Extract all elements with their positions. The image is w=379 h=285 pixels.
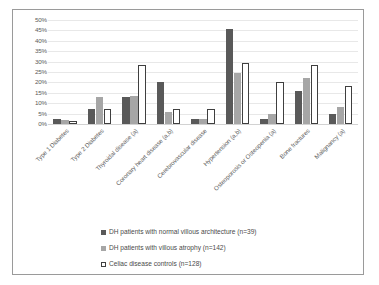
y-axis-tick-label: 10% [22,100,47,106]
bar[interactable] [199,119,207,124]
y-axis-tick-label: 45% [22,27,47,33]
bar-group [82,20,116,124]
bar[interactable] [104,109,112,124]
y-axis-tick-label: 50% [22,17,47,23]
bar[interactable] [311,65,319,124]
bar-group [324,20,358,124]
bar[interactable] [276,82,284,124]
bar[interactable] [88,109,96,124]
gridline [48,124,358,125]
bar-group [289,20,323,124]
y-axis-tick-label: 40% [22,38,47,44]
x-axis-tick-label: Osteoporosis or Osteopenia (a) [212,127,277,192]
x-axis-tick-label: Coronary heart disease (a,b) [114,127,174,187]
legend-swatch-icon [101,246,106,251]
x-axis-tick-label: Malignancy (a) [313,127,346,160]
y-axis-tick-label: 25% [22,69,47,75]
bar[interactable] [122,97,130,124]
bar[interactable] [260,119,268,124]
legend-item[interactable]: DH patients with villous atrophy (n=142) [101,240,341,256]
x-axis: Type 1 DiabetesType 2 DiabetesThyroidal … [48,127,358,207]
y-axis-tick-label: 30% [22,59,47,65]
bar[interactable] [53,119,61,124]
legend-swatch-icon [101,262,106,267]
bar-group [255,20,289,124]
bar-series-container [48,20,358,124]
y-axis-tick-label: 35% [22,48,47,54]
y-axis: 50%45%40%35%30%25%20%15%10%5%0% [22,20,47,124]
bar[interactable] [96,97,104,124]
bar-group [186,20,220,124]
y-axis-tick-label: 20% [22,79,47,85]
bar[interactable] [303,78,311,124]
legend-item-label: DH patients with villous atrophy (n=142) [109,244,226,252]
bar[interactable] [242,63,250,124]
y-axis-tick-label: 15% [22,90,47,96]
bar[interactable] [157,82,165,124]
y-axis-tick-label: 0% [22,121,47,127]
legend-item-label: Celiac disease controls (n=128) [109,260,202,268]
bar[interactable] [173,109,181,124]
plot-area: 50%45%40%35%30%25%20%15%10%5%0% [22,20,358,132]
bar[interactable] [345,86,353,124]
bar[interactable] [130,96,138,124]
x-axis-tick-label: Type 1 Diabetes [34,127,70,163]
legend-swatch-icon [101,230,106,235]
bar[interactable] [268,114,276,124]
bar[interactable] [234,73,242,124]
y-axis-tick-label: 5% [22,111,47,117]
bar-group [48,20,82,124]
bar[interactable] [337,107,345,124]
legend-item[interactable]: Celiac disease controls (n=128) [101,256,341,272]
legend-item-label: DH patients with normal villous architec… [109,228,257,236]
bar-group [117,20,151,124]
bar[interactable] [295,91,303,124]
x-axis-tick-label: Bone fractures [278,127,311,160]
bar[interactable] [226,29,234,124]
bar[interactable] [138,65,146,124]
bar[interactable] [69,121,77,124]
chart-figure: 50%45%40%35%30%25%20%15%10%5%0% Type 1 D… [12,9,364,275]
bar[interactable] [207,109,215,124]
bar[interactable] [191,119,199,124]
bar[interactable] [61,120,69,124]
bar[interactable] [329,114,337,124]
chart-legend: DH patients with normal villous architec… [101,224,341,272]
bar[interactable] [165,112,173,124]
bar-group [220,20,254,124]
legend-item[interactable]: DH patients with normal villous architec… [101,224,341,240]
bar-group [151,20,185,124]
x-axis-tick-label: Type 2 Diabetes [69,127,105,163]
